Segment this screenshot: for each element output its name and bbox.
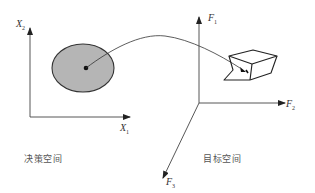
mapping-arrowhead [240, 67, 246, 72]
f3-axis-label: F3 [166, 176, 175, 189]
decision-region-ellipse [52, 44, 114, 92]
objective-region-box [224, 50, 277, 80]
x1-axis-label: X1 [120, 122, 129, 135]
f2-axis-label: F2 [286, 98, 295, 111]
decision-space-label: 决策空间 [24, 152, 62, 165]
f3-axis [163, 103, 199, 178]
f1-axis-label: F1 [208, 12, 217, 25]
objective-space-label: 目标空间 [203, 152, 241, 165]
x2-axis-label: X2 [16, 18, 25, 31]
